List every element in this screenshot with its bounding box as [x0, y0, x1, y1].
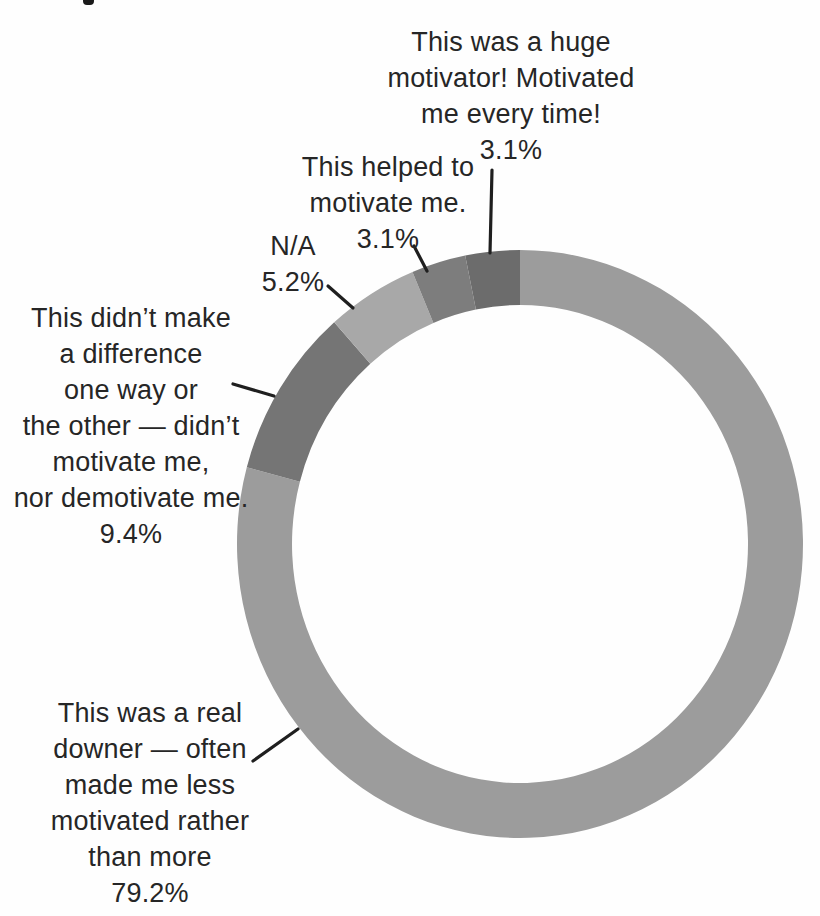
chart-page: This was a huge motivator! Motivated me …	[0, 0, 820, 916]
label-no-difference: This didn’t make a difference one way or…	[14, 300, 249, 552]
leader-line-na	[328, 286, 353, 308]
label-not-applicable: N/A 5.2%	[262, 228, 324, 300]
label-real-downer: This was a real downer — often made me l…	[51, 695, 249, 911]
leader-line-downer	[253, 729, 298, 761]
label-helped-motivate: This helped to motivate me. 3.1%	[302, 149, 474, 257]
label-huge-motivator: This was a huge motivator! Motivated me …	[387, 24, 634, 168]
donut-slice-no-difference	[247, 322, 370, 481]
leader-line-huge-motivator	[490, 170, 492, 253]
